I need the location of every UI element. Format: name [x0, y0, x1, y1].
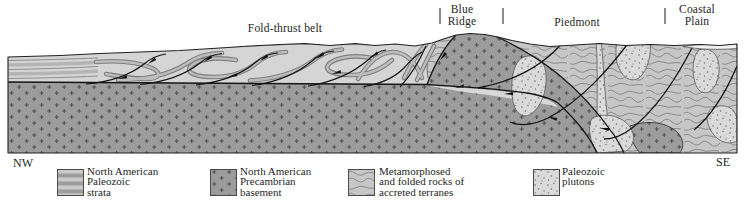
legend-label-metamorphic: Metamorphosed and folded rocks of accret…	[379, 166, 464, 197]
legend-label-basement: North American Precambrian basement	[240, 166, 311, 197]
legend-swatch-plutons	[533, 169, 560, 196]
direction-label-se: SE	[716, 155, 730, 170]
legend-swatch-strata	[57, 169, 84, 196]
legend-metamorphic-line3: accreted terranes	[379, 187, 464, 197]
legend-label-plutons: Paleozoic plutons	[562, 166, 605, 187]
legend-swatch-metamorphic	[348, 169, 375, 196]
region-label-coastal-plain: Coastal Plain	[667, 4, 727, 27]
region-label-piedmont: Piedmont	[537, 17, 617, 29]
coastal-plain-line1: Coastal	[667, 4, 727, 16]
tick-mark-coastal-plain	[664, 8, 666, 24]
blue-ridge-line1: Blue	[432, 4, 492, 16]
region-label-blue-ridge: Blue Ridge	[432, 4, 492, 27]
legend-strata-line3: strata	[87, 187, 158, 197]
blue-ridge-line2: Ridge	[432, 16, 492, 28]
geologic-cross-section-figure: Fold-thrust belt Blue Ridge Piedmont Coa…	[0, 0, 747, 214]
legend-basement-line3: basement	[240, 187, 311, 197]
legend-label-strata: North American Paleozoic strata	[87, 166, 158, 197]
coastal-plain-line2: Plain	[667, 16, 727, 28]
tick-mark-blue-ridge-right	[502, 8, 504, 24]
legend-swatch-basement	[210, 169, 237, 196]
legend-plutons-line2: plutons	[562, 176, 605, 186]
direction-label-nw: NW	[13, 156, 33, 171]
region-label-fold-thrust-belt: Fold-thrust belt	[232, 23, 338, 35]
tick-mark-blue-ridge-left	[439, 8, 441, 24]
